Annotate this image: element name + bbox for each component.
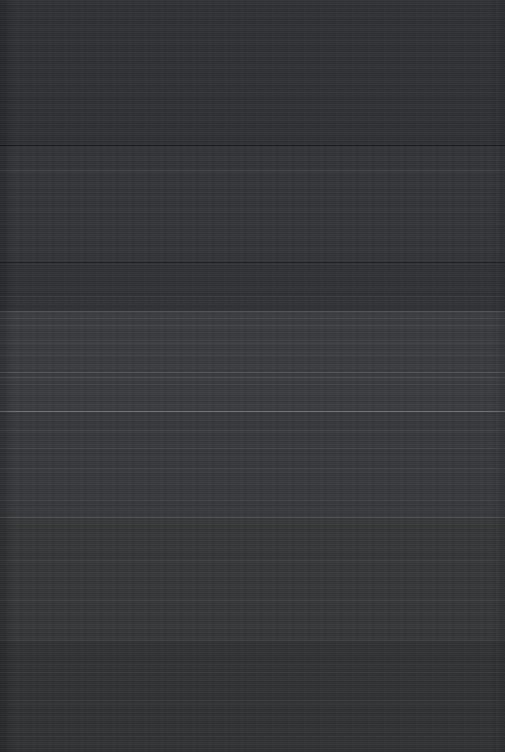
- rule-light-372: [0, 372, 505, 373]
- rule-light-517: [0, 517, 505, 518]
- rule-light-311: [0, 311, 505, 312]
- rule-light-560: [0, 560, 505, 561]
- rule-light-468: [0, 468, 505, 469]
- band-upper-mid: [0, 145, 505, 262]
- band-mid: [0, 262, 505, 311]
- rule-light-672: [0, 672, 505, 673]
- band-light-upper: [0, 311, 505, 411]
- band-bottom: [0, 640, 505, 752]
- rule-light-736: [0, 736, 505, 737]
- band-lower-mid: [0, 517, 505, 640]
- rule-light-296: [0, 296, 505, 297]
- rule-bright-411: [0, 411, 505, 412]
- rule-dark-262: [0, 262, 505, 263]
- rule-light-448: [0, 448, 505, 449]
- rule-light-430: [0, 430, 505, 431]
- right-edge-strip: [496, 0, 505, 752]
- rule-light-355: [0, 355, 505, 356]
- rule-light-170: [0, 170, 505, 171]
- edge-vignette-overlay: [0, 0, 505, 752]
- band-light-lower: [0, 411, 505, 517]
- compression-noise-overlay: [0, 0, 505, 752]
- rule-light-318: [0, 318, 505, 319]
- rule-light-640: [0, 640, 505, 641]
- rule-light-384: [0, 384, 505, 385]
- screen-capture: Dark screen capture with no legible inte…: [0, 0, 505, 752]
- rule-light-700: [0, 700, 505, 701]
- band-top: [0, 0, 505, 145]
- rule-light-343: [0, 343, 505, 344]
- rule-light-325: [0, 325, 505, 326]
- capture-state-label: Dark screen capture with no legible inte…: [0, 0, 1, 1]
- rule-light-600: [0, 600, 505, 601]
- rule-light-500: [0, 500, 505, 501]
- rule-dark-145: [0, 145, 505, 146]
- rule-light-377: [0, 377, 505, 378]
- scanline-overlay: [0, 0, 505, 752]
